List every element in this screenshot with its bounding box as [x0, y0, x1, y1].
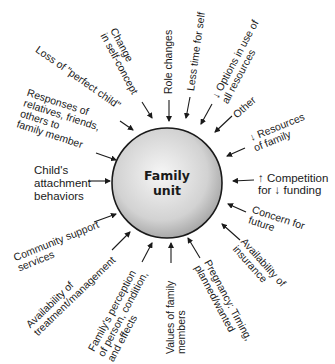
center-label-line2: unit: [153, 183, 181, 198]
center-label-line1: Family: [144, 168, 190, 183]
factor-attachment-behaviors: Child's attachment behaviors: [34, 164, 91, 203]
factor-values-family: Values of family members: [165, 281, 187, 354]
factor-role-changes: Role changes: [163, 30, 174, 94]
factor-competition-funding: ↑ Competition for ↓ funding: [258, 172, 328, 196]
